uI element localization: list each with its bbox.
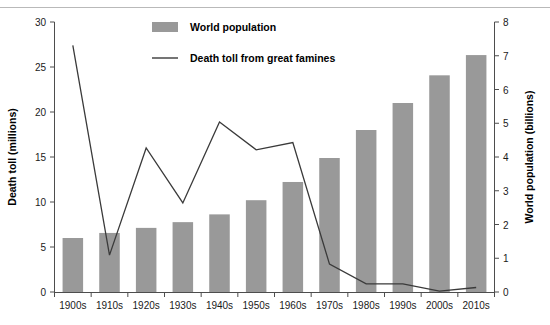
x-axis-tick-label-1910s: 1910s [96, 300, 123, 311]
right-axis-tick-label: 8 [503, 17, 509, 28]
bar-1930s [173, 222, 194, 292]
x-axis-tick-label-1920s: 1920s [133, 300, 160, 311]
legend-label-famine-death-toll: Death toll from great famines [190, 52, 335, 64]
bar-2000s [429, 75, 450, 292]
x-axis-tick-labels: 1900s1910s1920s1930s1940s1950s1960s1970s… [59, 300, 490, 311]
famine-death-toll-line [73, 45, 476, 291]
chart-canvas: 30 25 20 15 10 5 0 Death toll (millions)… [0, 0, 550, 325]
right-axis-title: World population (billions) [523, 91, 535, 224]
left-axis-tick-label: 15 [35, 152, 47, 163]
bar-1980s [356, 130, 377, 292]
right-axis-tick-label: 7 [503, 51, 509, 62]
bar-1970s [319, 158, 340, 292]
x-axis-tick-label-1950s: 1950s [243, 300, 270, 311]
x-axis-tick-label-1970s: 1970s [316, 300, 343, 311]
chart-legend: World population Death toll from great f… [152, 21, 335, 64]
bar-1950s [246, 200, 267, 292]
bar-1960s [283, 182, 304, 292]
left-axis-tick-label: 25 [35, 62, 47, 73]
line-series-famine-death-toll [73, 45, 476, 291]
x-axis-tick-label-1960s: 1960s [279, 300, 306, 311]
right-axis-tick-label: 1 [503, 253, 509, 264]
bar-1940s [209, 214, 230, 292]
left-axis-tick-label: 30 [35, 17, 47, 28]
right-axis-tick-label: 6 [503, 85, 509, 96]
legend-label-world-population: World population [190, 21, 276, 33]
right-axis: 8 7 6 5 4 3 2 1 0 World population (bill… [495, 17, 536, 298]
x-axis-tick-label-1930s: 1930s [169, 300, 196, 311]
left-axis-tick-label: 10 [35, 197, 47, 208]
bar-1990s [393, 103, 414, 292]
x-axis-tick-label-1990s: 1990s [389, 300, 416, 311]
right-axis-tick-label: 0 [503, 287, 509, 298]
x-axis-tick-label-2010s: 2010s [463, 300, 490, 311]
left-axis: 30 25 20 15 10 5 0 Death toll (millions) [6, 17, 55, 298]
x-axis-tick-label-1900s: 1900s [59, 300, 86, 311]
right-axis-tick-label: 2 [503, 220, 509, 231]
left-axis-tick-label: 0 [40, 287, 46, 298]
x-axis-tick-label-1940s: 1940s [206, 300, 233, 311]
bar-2010s [466, 55, 487, 292]
right-axis-tick-label: 4 [503, 152, 509, 163]
right-axis-tick-label: 5 [503, 118, 509, 129]
right-axis-tick-label: 3 [503, 186, 509, 197]
bar-1920s [136, 228, 157, 292]
famine-population-chart-figure: 30 25 20 15 10 5 0 Death toll (millions)… [0, 0, 550, 325]
left-axis-title: Death toll (millions) [6, 108, 18, 205]
bar-1910s [99, 233, 120, 292]
x-axis-tick-label-2000s: 2000s [426, 300, 453, 311]
x-axis: 1900s1910s1920s1930s1940s1950s1960s1970s… [55, 292, 495, 311]
legend-swatch-world-population [152, 22, 178, 32]
bar-series-world-population [63, 55, 487, 292]
bar-1900s [63, 238, 84, 292]
left-axis-tick-label: 20 [35, 107, 47, 118]
x-axis-tick-label-1980s: 1980s [353, 300, 380, 311]
left-axis-tick-label: 5 [40, 242, 46, 253]
